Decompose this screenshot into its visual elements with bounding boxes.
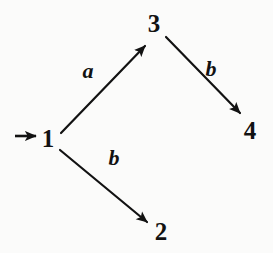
edge-1-to-3 xyxy=(61,46,145,133)
state-transition-diagram: 1 3 2 4 a b b xyxy=(0,0,273,253)
node-1-label[interactable]: 1 xyxy=(36,126,60,151)
node-3-label[interactable]: 3 xyxy=(142,11,166,36)
edge-label-a: a xyxy=(76,60,100,82)
node-4-label[interactable]: 4 xyxy=(238,118,262,143)
edge-label-b-lower: b xyxy=(102,147,126,169)
node-2-label[interactable]: 2 xyxy=(149,219,173,244)
edge-label-b-upper: b xyxy=(199,58,223,80)
